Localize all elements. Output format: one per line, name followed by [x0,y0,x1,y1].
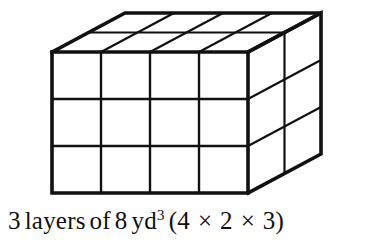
prism-outline [52,13,321,193]
caption-times-1: × [198,207,212,234]
caption-close-paren: ) [276,207,285,234]
caption-layers-word: layers [25,207,86,234]
caption-dim-depth: 2 [220,207,233,234]
figure-container: 3layersof8yd3(4×2×3) [0,0,374,246]
caption-of-word: of [90,207,111,234]
caption-open-paren: ( [169,207,178,234]
caption-times-2: × [241,207,255,234]
top-face-grid [89,13,285,52]
right-face-grid [248,33,321,174]
caption-dim-width: 4 [177,207,190,234]
caption-unit: yd [132,207,157,234]
caption-dim-height: 3 [263,207,276,234]
caption-unit-exponent: 3 [157,207,165,223]
front-face-grid [52,52,248,193]
caption-layers-count: 3 [8,207,21,234]
figure-caption: 3layersof8yd3(4×2×3) [8,204,374,238]
caption-per-layer-count: 8 [115,207,128,234]
